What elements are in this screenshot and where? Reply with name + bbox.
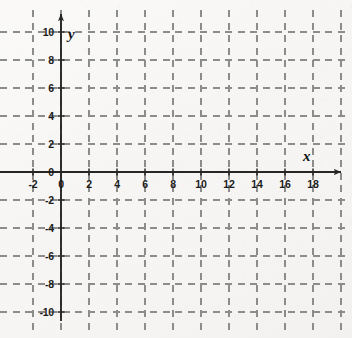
y-tick-label: -10 [39, 307, 54, 318]
x-tick-label: 12 [223, 179, 234, 190]
y-tick-label: 8 [48, 55, 54, 66]
x-tick-label: 2 [86, 179, 92, 190]
x-tick-label: 10 [195, 179, 206, 190]
x-tick-label: 16 [279, 179, 290, 190]
y-axis-label: y [68, 27, 75, 42]
x-tick-label: 8 [170, 179, 176, 190]
x-tick-label: 4 [114, 179, 120, 190]
vertical-gridlines [33, 10, 341, 330]
y-tick-label: 4 [48, 111, 54, 122]
x-tick-label: 6 [142, 179, 148, 190]
y-tick-label: -6 [45, 251, 54, 262]
x-tick-label: 0 [58, 179, 64, 190]
y-tick-label: -8 [45, 279, 54, 290]
y-tick-label: -2 [45, 195, 54, 206]
x-tick-label: -2 [29, 179, 38, 190]
x-tick-label: 18 [307, 179, 318, 190]
y-tick-label: 10 [43, 27, 54, 38]
graph-canvas: -2024681012141618 1086420-2-4-6-8-10 x y [0, 0, 352, 338]
y-tick-label: 2 [48, 139, 54, 150]
y-tick-label: -4 [45, 223, 54, 234]
y-tick-label: 6 [48, 83, 54, 94]
x-axis-label: x [303, 149, 311, 164]
x-tick-label: 14 [251, 179, 262, 190]
y-tick-label: 0 [48, 167, 54, 178]
